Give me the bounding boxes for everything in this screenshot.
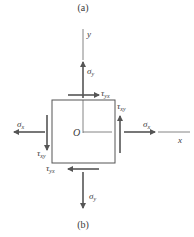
svg-text:τxy: τxy [117,101,126,112]
caption-a: (a) [77,2,88,14]
svg-text:σx: σx [17,119,24,130]
tau-yx-bottom-label: τyx [46,163,55,174]
svg-text:σx: σx [143,119,150,130]
origin-label: O [73,127,80,138]
y-axis-label: y [86,29,91,39]
svg-text:τyx: τyx [101,88,110,99]
sigma-x-right-label: σx [143,119,150,130]
tau-xy-left-label: τxy [37,148,46,159]
tau-yx-top-label: τyx [101,88,110,99]
stress-element-box [52,100,115,163]
sigma-y-top-label: σy [87,66,94,77]
stress-element-diagram: (a) y σy τyx O τxy σx x σx τxy τyx [0,0,194,237]
sigma-y-bottom-label: σy [89,191,96,202]
svg-text:τyx: τyx [46,163,55,174]
x-axis-label: x [177,135,182,145]
sigma-x-left-label: σx [17,119,24,130]
svg-text:σy: σy [89,191,96,202]
caption-b: (b) [77,219,89,231]
svg-text:σy: σy [87,66,94,77]
tau-xy-right-label: τxy [117,101,126,112]
svg-text:τxy: τxy [37,148,46,159]
